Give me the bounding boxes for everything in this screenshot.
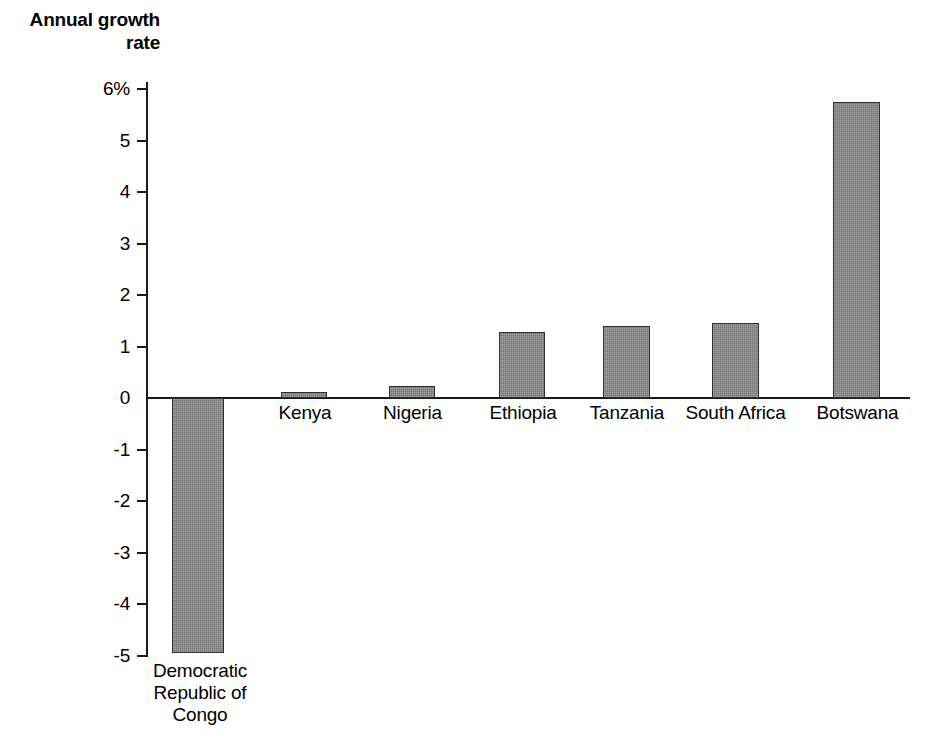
y-tick-mark [137,449,147,451]
y-tick-label-wrap: -3 [62,543,130,562]
bar [712,323,759,398]
y-tick-label: -4 [70,594,130,613]
bar [603,326,650,398]
y-tick-mark [137,346,147,348]
y-tick-label-wrap: -4 [62,594,130,613]
y-tick-label-wrap: 5 [62,131,130,150]
y-tick-label: -2 [70,491,130,510]
y-tick-mark [137,243,147,245]
y-tick-label-wrap: 4 [62,182,130,201]
y-tick-label: 1 [70,337,130,356]
y-tick-label: 0 [70,388,130,407]
y-tick-mark [137,88,147,90]
y-tick-mark [137,552,147,554]
y-tick-mark [137,140,147,142]
y-tick-label-wrap: 1 [62,337,130,356]
y-tick-mark [137,603,147,605]
y-tick-mark [137,500,147,502]
x-axis-label: South Africa [668,402,803,424]
chart-figure: Annual growth rate 6%543210-1-2-3-4-5 De… [0,0,931,742]
y-tick-label-wrap: 2 [62,285,130,304]
y-tick-label-wrap: 6% [62,79,130,98]
y-tick-label-wrap: -5 [62,646,130,665]
y-tick-label: 5 [70,131,130,150]
y-tick-label: 6% [70,79,130,98]
x-axis-label: Nigeria [355,402,470,424]
y-tick-label-wrap: 3 [62,234,130,253]
bar [499,332,545,398]
bar [281,392,327,398]
x-axis-label: Kenya [250,402,360,424]
bar [833,102,880,398]
y-tick-label-wrap: -1 [62,440,130,459]
bar [389,386,435,398]
y-tick-label-wrap: 0 [62,388,130,407]
y-tick-label: -5 [70,646,130,665]
x-axis-label: Ethiopia [463,402,583,424]
x-axis-label: Democratic Republic of Congo [150,660,250,726]
y-tick-mark [137,294,147,296]
y-tick-label: 4 [70,182,130,201]
x-axis-label: Botswana [790,402,925,424]
y-tick-label: 2 [70,285,130,304]
y-axis-line [146,82,148,657]
y-tick-label: -1 [70,440,130,459]
y-tick-mark [137,191,147,193]
bar [172,398,224,653]
plot-area: 6%543210-1-2-3-4-5 Democratic Republic o… [0,0,931,742]
y-tick-label-wrap: -2 [62,491,130,510]
y-tick-label: 3 [70,234,130,253]
y-tick-label: -3 [70,543,130,562]
y-tick-mark [137,655,147,657]
